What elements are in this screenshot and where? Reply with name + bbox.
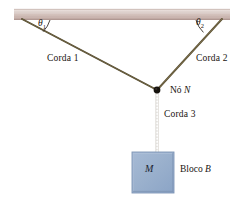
rope-label-corda3: Corda 3 bbox=[164, 110, 196, 120]
rope-label-corda2: Corda 2 bbox=[196, 54, 228, 64]
angle-label-theta1: θ1 bbox=[38, 18, 46, 30]
block-label: Bloco B bbox=[180, 165, 211, 175]
rope-corda3 bbox=[156, 90, 159, 153]
angle-label-theta2: θ2 bbox=[196, 17, 204, 29]
block-mass-label: M bbox=[145, 163, 153, 174]
rope-label-corda1: Corda 1 bbox=[47, 54, 79, 64]
knot-node bbox=[154, 87, 161, 94]
physics-diagram: θ1 θ2 Corda 1 Corda 2 Corda 3 Nó N M Blo… bbox=[0, 0, 241, 198]
node-label: Nó N bbox=[170, 86, 190, 96]
